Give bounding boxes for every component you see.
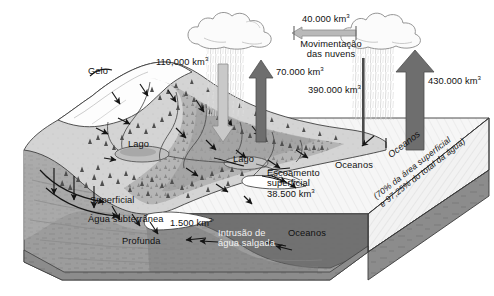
label-evaporation-oceanic: 430.000 km3 xyxy=(428,76,481,86)
label-ice: Gelo xyxy=(88,66,108,76)
diagram-canvas xyxy=(0,0,494,296)
label-cloud-movement-caption: Movimentação das nuvens xyxy=(294,39,368,60)
saltwater-line-1: Intrusão de xyxy=(218,228,275,238)
cloud-continental xyxy=(188,12,271,49)
label-oceans-2: Oceanos xyxy=(288,228,326,238)
label-lake-1: Lago xyxy=(128,139,149,149)
arrow-precipitation-oceanic xyxy=(362,58,365,144)
label-lake-2: Lago xyxy=(233,154,254,164)
surface-runoff-value: 38.500 km3 xyxy=(267,189,320,199)
label-cloud-movement-value: 40.000 km3 xyxy=(302,14,350,24)
label-surface-flow: Superficial xyxy=(90,195,135,205)
label-groundwater-value: 1.500 km3 xyxy=(170,218,213,228)
cloud-movement-caption-line-2: das nuvens xyxy=(294,49,368,59)
water-cycle-diagram: 110,000 km3 70.000 km3 40.000 km3 Movime… xyxy=(0,0,494,296)
label-surface-runoff: Escoamento superficial 38.500 km3 xyxy=(267,168,320,199)
label-evapotranspiration-continental: 70.000 km3 xyxy=(276,67,324,77)
label-deep-water: Profunda xyxy=(122,236,161,246)
saltwater-line-2: água salgada xyxy=(218,238,275,248)
label-groundwater: Água subterrânea xyxy=(88,214,164,224)
label-oceans-1: Oceanos xyxy=(335,160,373,170)
superscript-3: 3 xyxy=(205,55,209,62)
label-precipitation-continental: 110,000 km3 xyxy=(156,57,208,67)
cloud-movement-caption-line-1: Movimentação xyxy=(294,39,368,49)
surface-runoff-line-1: Escoamento xyxy=(267,168,320,178)
label-saltwater-intrusion: Intrusão de água salgada xyxy=(218,228,275,249)
label-precipitation-oceanic: 390.000 km3 xyxy=(308,85,361,95)
